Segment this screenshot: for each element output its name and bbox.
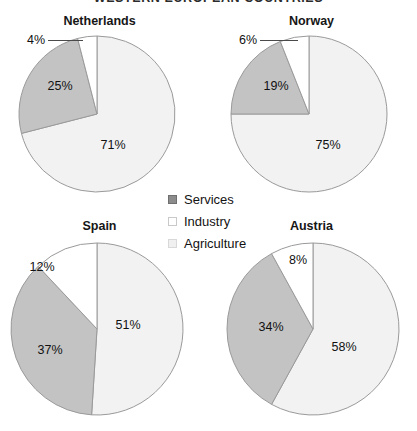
slice-label-austria-industry: 8% bbox=[289, 253, 307, 267]
slice-label-norway-agriculture: 75% bbox=[315, 138, 340, 152]
legend-item-services[interactable]: Services bbox=[168, 190, 288, 209]
chart-title-netherlands: Netherlands bbox=[2, 14, 197, 28]
legend-swatch-services-icon bbox=[168, 195, 177, 204]
figure-title: WESTERN EUROPEAN COUNTRIES bbox=[0, 0, 417, 5]
slice-label-norway-services: 19% bbox=[263, 79, 288, 93]
leader-line-norway-industry bbox=[260, 40, 298, 41]
chart-title-norway: Norway bbox=[214, 14, 409, 28]
slice-label-netherlands-services: 25% bbox=[47, 79, 72, 93]
chart-panel-netherlands: Netherlands 71% 25% 4% bbox=[2, 14, 197, 194]
slice-label-spain-services: 37% bbox=[37, 343, 62, 357]
pie-netherlands-svg bbox=[16, 33, 178, 195]
pie-austria bbox=[224, 240, 402, 418]
slice-label-netherlands-industry: 4% bbox=[27, 33, 45, 47]
slice-label-netherlands-agriculture: 71% bbox=[100, 138, 125, 152]
pie-norway bbox=[228, 33, 390, 195]
leader-line-netherlands-industry bbox=[48, 40, 83, 41]
slice-label-spain-industry: 12% bbox=[29, 260, 54, 274]
pie-norway-svg bbox=[228, 33, 390, 195]
chart-panel-norway: Norway 75% 19% 6% bbox=[214, 14, 409, 194]
chart-panel-austria: Austria 58% 34% 8% bbox=[214, 219, 409, 424]
legend-label-services: Services bbox=[184, 193, 234, 206]
pie-austria-svg bbox=[224, 240, 402, 418]
pie-netherlands bbox=[16, 33, 178, 195]
slice-label-spain-agriculture: 51% bbox=[115, 318, 140, 332]
chart-title-austria: Austria bbox=[214, 219, 409, 233]
chart-title-spain: Spain bbox=[2, 219, 197, 233]
chart-panel-spain: Spain 51% 37% 12% bbox=[2, 219, 197, 424]
slice-label-norway-industry: 6% bbox=[239, 33, 257, 47]
slice-label-austria-services: 34% bbox=[258, 320, 283, 334]
pie-chart-figure: WESTERN EUROPEAN COUNTRIES Netherlands 7… bbox=[0, 0, 417, 431]
slice-label-austria-agriculture: 58% bbox=[331, 340, 356, 354]
